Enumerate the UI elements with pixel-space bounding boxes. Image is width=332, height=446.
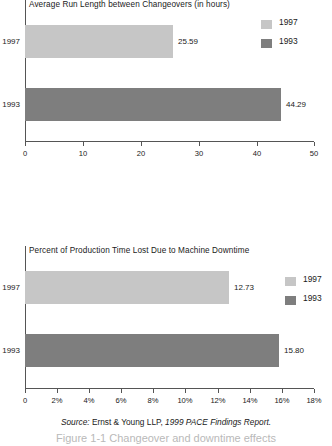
bar-value-1993: 15.80 xyxy=(284,346,304,355)
category-label-1993: 1993 xyxy=(0,346,20,355)
x-tick xyxy=(141,142,142,146)
source-organization: Ernst & Young LLP, xyxy=(92,417,163,427)
x-tick-label: 50 xyxy=(310,149,318,158)
x-tick xyxy=(25,389,26,393)
legend-item-1997: 1997 xyxy=(261,17,331,36)
x-tick-label: 2% xyxy=(52,396,63,405)
x-tick xyxy=(25,142,26,146)
x-tick-label: 12% xyxy=(210,396,225,405)
x-tick xyxy=(89,389,90,393)
category-axis-line xyxy=(25,246,26,389)
category-label-1997: 1997 xyxy=(0,283,20,292)
value-axis-line xyxy=(25,141,314,142)
legend-item-1993: 1993 xyxy=(261,36,331,55)
chart-average-run-length: Average Run Length between Changeovers (… xyxy=(0,0,332,165)
bar-1993 xyxy=(25,88,281,121)
figure-caption-clipped: Figure 1-1 Changeover and downtime effec… xyxy=(0,434,332,446)
x-tick-label: 30 xyxy=(195,149,203,158)
source-reference: 1999 PACE Findings Report. xyxy=(165,417,271,427)
category-label-1997: 1997 xyxy=(0,37,20,46)
bar-value-1997: 25.59 xyxy=(178,37,198,46)
x-tick xyxy=(257,142,258,146)
x-tick xyxy=(282,389,283,393)
bar-1997 xyxy=(25,25,173,58)
chart-legend: 1997 1993 xyxy=(285,274,332,312)
bar-value-1997: 12.73 xyxy=(234,283,254,292)
chart-title: Percent of Production Time Lost Due to M… xyxy=(29,246,249,255)
x-tick xyxy=(250,389,251,393)
x-tick-label: 6% xyxy=(116,396,127,405)
x-tick-label: 18% xyxy=(306,396,321,405)
x-tick-label: 10 xyxy=(79,149,87,158)
x-tick xyxy=(153,389,154,393)
chart-production-time-lost: Percent of Production Time Lost Due to M… xyxy=(0,246,332,414)
x-tick-label: 0 xyxy=(23,149,27,158)
x-tick xyxy=(121,389,122,393)
x-tick-label: 10% xyxy=(177,396,192,405)
x-tick xyxy=(314,142,315,146)
x-tick xyxy=(83,142,84,146)
legend-item-1997: 1997 xyxy=(285,274,332,293)
x-tick xyxy=(218,389,219,393)
source-note: Source: Ernst & Young LLP, 1999 PACE Fin… xyxy=(0,417,332,427)
x-tick xyxy=(199,142,200,146)
legend-swatch-icon xyxy=(261,20,272,29)
x-tick-label: 16% xyxy=(274,396,289,405)
legend-swatch-icon xyxy=(285,277,296,286)
bar-value-1993: 44.29 xyxy=(286,100,306,109)
x-tick xyxy=(57,389,58,393)
bar-1993 xyxy=(25,334,279,367)
bar-1997 xyxy=(25,271,229,304)
x-tick-label: 8% xyxy=(148,396,159,405)
x-tick-label: 20 xyxy=(137,149,145,158)
legend-swatch-icon xyxy=(285,296,296,305)
figure-caption-text: Figure 1-1 Changeover and downtime effec… xyxy=(0,434,332,444)
source-prefix: Source: xyxy=(61,417,90,427)
legend-label: 1997 xyxy=(279,17,298,27)
chart-legend: 1997 1993 xyxy=(261,17,331,55)
x-tick-label: 0 xyxy=(23,396,27,405)
chart-title: Average Run Length between Changeovers (… xyxy=(29,0,230,9)
x-tick-label: 4% xyxy=(84,396,95,405)
x-tick-label: 14% xyxy=(242,396,257,405)
legend-label: 1993 xyxy=(279,36,298,46)
x-tick xyxy=(185,389,186,393)
value-axis-line xyxy=(25,388,314,389)
legend-item-1993: 1993 xyxy=(285,293,332,312)
x-tick-label: 40 xyxy=(253,149,261,158)
x-tick xyxy=(314,389,315,393)
legend-label: 1993 xyxy=(303,293,322,303)
legend-label: 1997 xyxy=(303,274,322,284)
category-label-1993: 1993 xyxy=(0,100,20,109)
legend-swatch-icon xyxy=(261,39,272,48)
figure-container: Average Run Length between Changeovers (… xyxy=(0,0,332,446)
